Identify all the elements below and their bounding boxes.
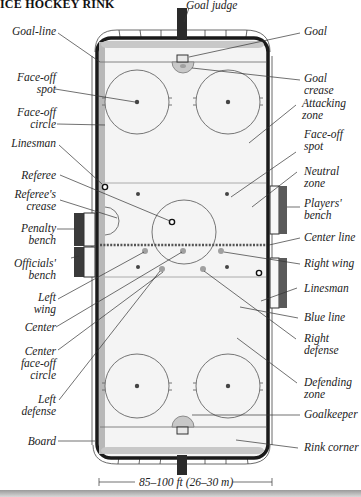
label-board: Board [28,435,56,447]
label-neutral-zone: Neutral zone [304,165,339,189]
label-linesman-left: Linesman [11,137,56,149]
label-blue-line: Blue line [304,311,345,323]
label-face-off-spot-left: Face-off spot [17,71,56,95]
label-linesman-right: Linesman [304,282,349,294]
label-goal-line: Goal-line [12,25,56,37]
players-bench-bottom [270,258,287,308]
linesman-left [102,184,107,189]
label-goal: Goal [304,25,327,37]
label-right-defense: Right defense [304,332,338,356]
label-officials-bench: Officials' bench [14,257,56,281]
label-goal-crease: Goal crease [304,72,334,96]
label-center-face-off-circle: Center face-off circle [21,345,56,381]
referee [169,219,174,224]
players-bench-top [270,186,287,234]
label-center-line: Center line [304,231,355,243]
center-player [180,248,186,254]
goal-bottom [177,427,188,434]
label-attacking-zone: Attacking zone [302,97,346,121]
label-defending-zone: Defending zone [304,376,352,400]
label-players-bench: Players' bench [304,197,342,221]
ice-surface [97,38,268,458]
label-right-wing: Right wing [304,257,354,269]
goal-judge-box-bottom [177,455,187,475]
label-referee: Referee [21,169,56,181]
label-referees-crease: Referee's crease [14,188,56,212]
linesman-right [256,270,261,275]
label-center: Center [25,321,56,333]
label-left-wing: Left wing [34,291,56,315]
goal-top [177,55,188,62]
label-face-off-circle: Face-off circle [17,106,56,130]
label-goalkeeper: Goalkeeper [304,408,358,420]
label-penalty-bench: Penalty bench [21,222,56,246]
right-wing-player [218,248,224,254]
label-goal-judge: Goal judge [186,0,237,11]
label-left-defense: Left defense [22,393,56,417]
rink-width-dimension: 85–100 ft (26–30 m) [139,476,233,488]
right-defense-player [200,266,206,272]
label-face-off-spot-right: Face-off spot [304,128,343,152]
goalkeeper-top [180,64,186,68]
bottom-border [0,490,361,497]
label-rink-corner: Rink corner [304,441,359,453]
goal-judge-box-top [177,8,187,40]
penalty-bench [74,213,95,246]
left-wing-player [142,248,148,254]
officials-bench [74,247,95,277]
